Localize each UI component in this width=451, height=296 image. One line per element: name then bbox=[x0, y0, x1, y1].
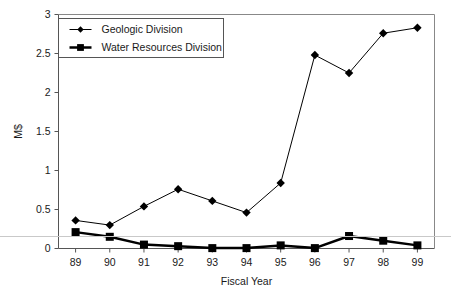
data-point-marker bbox=[208, 197, 216, 205]
data-point-marker bbox=[72, 228, 80, 236]
data-point-marker bbox=[243, 244, 251, 252]
data-point-marker bbox=[413, 24, 421, 32]
data-point-marker bbox=[140, 202, 148, 210]
x-tick-label: 94 bbox=[241, 256, 253, 268]
legend-label-0: Geologic Division bbox=[102, 23, 183, 35]
x-tick-label: 92 bbox=[172, 256, 184, 268]
x-tick-label: 96 bbox=[309, 256, 321, 268]
data-point-marker bbox=[311, 51, 319, 59]
x-tick-label: 99 bbox=[412, 256, 424, 268]
y-tick-label: 2.5 bbox=[36, 47, 51, 59]
legend-label-1: Water Resources Division bbox=[102, 41, 223, 53]
x-tick-label: 93 bbox=[206, 256, 218, 268]
data-point-marker bbox=[174, 185, 182, 193]
y-axis-title: M$ bbox=[12, 124, 24, 139]
y-tick-label: 3 bbox=[45, 8, 51, 20]
x-tick-label: 91 bbox=[138, 256, 150, 268]
data-point-marker bbox=[77, 44, 84, 51]
x-tick-label: 97 bbox=[343, 256, 355, 268]
x-tick-label: 89 bbox=[70, 256, 82, 268]
data-point-marker bbox=[106, 233, 114, 241]
x-tick-label: 90 bbox=[104, 256, 116, 268]
x-tick-label: 98 bbox=[377, 256, 389, 268]
data-point-marker bbox=[379, 237, 387, 245]
data-point-marker bbox=[311, 244, 319, 252]
chart-figure: 00.511.522.538990919293949596979899Fisca… bbox=[0, 0, 451, 296]
data-point-marker bbox=[174, 242, 182, 250]
y-tick-label: 0.5 bbox=[36, 203, 51, 215]
y-tick-label: 2 bbox=[45, 86, 51, 98]
x-tick-label: 95 bbox=[275, 256, 287, 268]
line-chart: 00.511.522.538990919293949596979899Fisca… bbox=[0, 0, 451, 296]
data-point-marker bbox=[277, 241, 285, 249]
data-point-marker bbox=[106, 221, 114, 229]
data-point-marker bbox=[345, 232, 353, 240]
data-point-marker bbox=[208, 244, 216, 252]
x-axis-title: Fiscal Year bbox=[221, 275, 273, 287]
y-tick-label: 1 bbox=[45, 164, 51, 176]
data-point-marker bbox=[413, 241, 421, 249]
data-point-marker bbox=[140, 241, 148, 249]
data-point-marker bbox=[71, 216, 79, 224]
y-tick-label: 1.5 bbox=[36, 125, 51, 137]
legend: Geologic DivisionWater Resources Divisio… bbox=[59, 19, 224, 58]
y-tick-label: 0 bbox=[45, 242, 51, 254]
